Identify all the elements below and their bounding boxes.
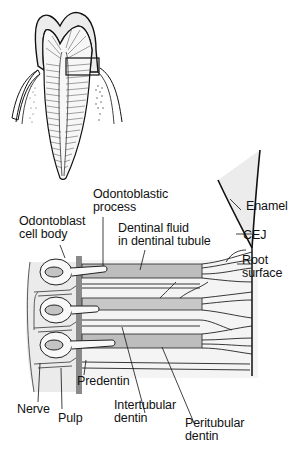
label-intertubular-dentin: Intertubular dentin (114, 399, 176, 425)
label-predentin: Predentin (77, 375, 130, 388)
label-dentinal-fluid: Dentinal fluid in dentinal tubule (118, 222, 211, 248)
label-cej: CEJ (243, 229, 266, 242)
label-root-surface: Root surface (242, 254, 282, 280)
label-line: process (93, 201, 168, 214)
label-peritubular-dentin: Peritubular dentin (185, 417, 244, 443)
label-line: cell body (19, 228, 85, 241)
label-odontoblastic-process: Odontoblastic process (93, 188, 168, 214)
label-line: surface (242, 267, 282, 280)
label-odontoblast-cell-body: Odontoblast cell body (19, 215, 85, 241)
label-line: dentin (185, 430, 244, 443)
label-line: in dentinal tubule (118, 235, 211, 248)
label-nerve: Nerve (17, 403, 50, 416)
label-pulp: Pulp (58, 412, 83, 425)
tooth-overview (12, 13, 122, 180)
label-line: dentin (114, 412, 176, 425)
label-enamel: Enamel (246, 200, 288, 213)
